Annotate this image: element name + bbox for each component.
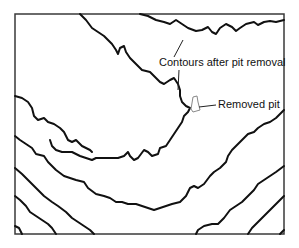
- removed-pit-label: Removed pit: [218, 99, 280, 110]
- contour-line-2: [50, 14, 190, 160]
- leader-line-contours-upper: [174, 40, 183, 57]
- contour-line-7: [15, 196, 56, 234]
- contour-line-8: [248, 196, 284, 234]
- contour-line-9: [15, 226, 22, 234]
- removed-pit-icon: [191, 96, 200, 112]
- contour-line-5: [15, 168, 94, 234]
- leader-line-pit: [199, 105, 216, 107]
- contour-line-1: [140, 14, 284, 34]
- contour-diagram: [0, 0, 299, 248]
- contours-label: Contours after pit removal: [159, 57, 286, 68]
